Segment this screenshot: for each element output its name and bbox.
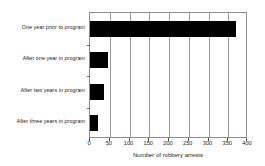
x-tick-label: 0 — [87, 141, 90, 147]
bar — [90, 21, 236, 37]
bar-series — [90, 13, 246, 137]
x-tick-label: 250 — [183, 141, 192, 147]
category-axis-labels: One year prior to program After one year… — [0, 12, 87, 138]
category-label: After two years in program — [0, 88, 85, 93]
bar — [90, 115, 98, 131]
category-tick — [87, 108, 90, 109]
plot-area — [89, 12, 247, 138]
category-tick — [87, 45, 90, 46]
robbery-arrests-bar-chart: One year prior to program After one year… — [0, 0, 265, 166]
category-label: One year prior to program — [0, 25, 85, 30]
x-tick-label: 50 — [106, 141, 112, 147]
x-tick-label: 200 — [163, 141, 172, 147]
x-tick-label: 350 — [223, 141, 232, 147]
category-label: After three years in program — [0, 119, 85, 124]
x-tick-label: 100 — [124, 141, 133, 147]
x-tick-label: 150 — [144, 141, 153, 147]
bar — [90, 84, 104, 100]
x-tick-label: 400 — [242, 141, 251, 147]
x-axis-title: Number of robbery arrests — [89, 152, 247, 158]
x-axis-tick-labels: 050100150200250300350400 — [89, 141, 247, 150]
category-label: After one year in program — [0, 56, 85, 61]
bar — [90, 52, 108, 68]
category-tick — [87, 76, 90, 77]
x-tick-label: 300 — [203, 141, 212, 147]
